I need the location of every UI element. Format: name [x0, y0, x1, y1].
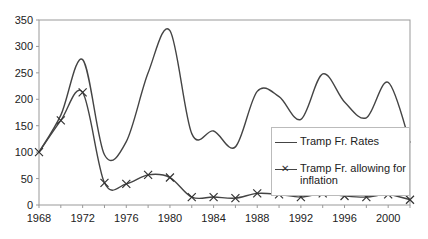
legend-x-marker-icon: ✕: [275, 169, 297, 170]
legend-item-inflation: ✕ Tramp Fr. allowing for inflation: [272, 162, 406, 186]
x-tick-label: 2000: [376, 212, 400, 224]
chart-legend: Tramp Fr. Rates ✕ Tramp Fr. allowing for…: [271, 127, 410, 196]
x-tick-label: 1988: [245, 212, 269, 224]
x-tick-label: 1992: [289, 212, 313, 224]
y-tick-label: 350: [15, 14, 33, 26]
legend-item-rates: Tramp Fr. Rates: [272, 135, 379, 147]
x-axis: 196819721976198019841988199219962000: [27, 205, 410, 224]
x-tick-label: 1968: [27, 212, 51, 224]
legend-label-line2: inflation: [300, 174, 338, 186]
y-tick-label: 150: [15, 120, 33, 132]
y-axis: 050100150200250300350: [15, 14, 39, 211]
legend-label: Tramp Fr. allowing for inflation: [300, 162, 406, 186]
line-chart: 050100150200250300350 196819721976198019…: [0, 0, 428, 239]
y-tick-label: 200: [15, 93, 33, 105]
y-tick-label: 0: [27, 199, 33, 211]
legend-label: Tramp Fr. Rates: [300, 135, 379, 147]
y-tick-label: 300: [15, 40, 33, 52]
x-tick-label: 1996: [332, 212, 356, 224]
legend-line-icon: [275, 142, 297, 143]
x-tick-label: 1980: [158, 212, 182, 224]
x-tick-label: 1984: [201, 212, 225, 224]
legend-label-line1: Tramp Fr. allowing for: [300, 162, 406, 174]
y-tick-label: 50: [21, 173, 33, 185]
x-tick-label: 1972: [70, 212, 94, 224]
x-tick-label: 1976: [114, 212, 138, 224]
y-tick-label: 250: [15, 67, 33, 79]
y-tick-label: 100: [15, 146, 33, 158]
